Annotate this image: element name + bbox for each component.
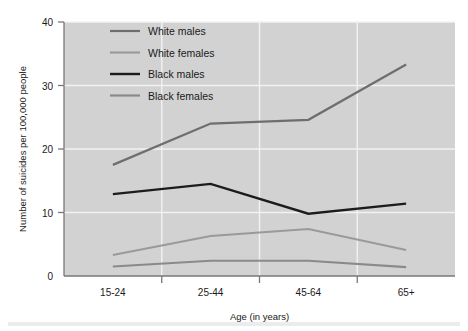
figure-container: 010203040 15-2425-4445-6465+ White males… (0, 0, 468, 331)
legend-label-black-females: Black females (148, 90, 213, 102)
x-tick-label: 45-64 (296, 287, 322, 298)
suicide-rate-line-chart: 010203040 15-2425-4445-6465+ White males… (0, 0, 468, 331)
y-tick-label: 30 (42, 81, 54, 92)
bottom-divider-band (8, 322, 460, 326)
legend-label-white-males: White males (148, 25, 206, 37)
y-tick-label: 40 (42, 17, 54, 28)
legend-label-black-males: Black males (148, 68, 205, 80)
y-tick-label: 10 (42, 208, 54, 219)
y-tick-label: 20 (42, 144, 54, 155)
x-tick-label: 25-44 (198, 287, 224, 298)
x-tick-label: 15-24 (100, 287, 126, 298)
y-axis-title: Number of suicides per 100,000 people (17, 66, 28, 232)
x-tick-label: 65+ (398, 287, 415, 298)
y-tick-label: 0 (47, 271, 53, 282)
x-axis-title: Age (in years) (230, 311, 289, 322)
legend-label-white-females: White females (148, 47, 215, 59)
